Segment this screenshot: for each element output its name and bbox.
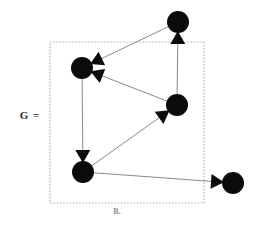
graph-figure: G = B. bbox=[0, 0, 255, 231]
node-middle-right bbox=[166, 94, 188, 116]
arrow-layer bbox=[75, 31, 224, 189]
edge-lower-left-to-middle-right-arrowhead-icon bbox=[155, 110, 170, 124]
graph-canvas bbox=[0, 0, 255, 231]
figure-caption: B. bbox=[100, 207, 134, 217]
edge-layer bbox=[82, 26, 224, 182]
node-upper-left bbox=[71, 57, 93, 79]
edge-lower-left-to-bottom-right-arrowhead-icon bbox=[211, 174, 225, 189]
node-top bbox=[167, 11, 189, 33]
node-bottom-right bbox=[222, 172, 244, 194]
edge-top-to-upper-left bbox=[90, 26, 169, 64]
node-lower-left bbox=[72, 161, 94, 183]
edge-lower-left-to-middle-right bbox=[91, 110, 170, 166]
node-layer bbox=[71, 11, 244, 194]
